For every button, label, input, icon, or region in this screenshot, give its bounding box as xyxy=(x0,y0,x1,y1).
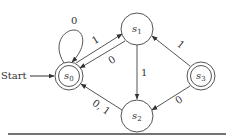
label-s2-s0: 0, 1 xyxy=(90,97,112,117)
svg-text:s0: s0 xyxy=(64,70,74,83)
start-label: Start xyxy=(1,70,27,81)
label-s3-s1: 1 xyxy=(175,38,187,51)
label-s1-s2: 1 xyxy=(141,67,147,78)
state-s2-sub: 2 xyxy=(137,115,141,123)
state-s0: s0 xyxy=(55,62,83,90)
state-s1: s1 xyxy=(121,13,153,45)
label-s3-s2: 0 xyxy=(173,94,184,107)
fsm-diagram: s0 s1 s2 s3 Start 0 1 0 1 1 0 0, 1 xyxy=(0,0,231,138)
transition-s3-s2 xyxy=(152,86,190,110)
transition-s1-s0 xyxy=(80,41,125,68)
label-s1-s0: 0 xyxy=(106,54,117,67)
state-s0-sub: 0 xyxy=(69,75,73,83)
state-s1-sub: 1 xyxy=(137,28,141,36)
label-s0-s0: 0 xyxy=(71,15,77,26)
state-s3-sub: 3 xyxy=(201,75,205,83)
state-s3: s3 xyxy=(187,62,215,90)
label-s0-s1: 1 xyxy=(90,34,101,47)
svg-text:s1: s1 xyxy=(132,23,142,36)
svg-text:s3: s3 xyxy=(196,70,206,83)
state-s2: s2 xyxy=(121,100,153,132)
transition-s0-s0 xyxy=(59,30,83,63)
svg-text:s2: s2 xyxy=(132,110,142,123)
